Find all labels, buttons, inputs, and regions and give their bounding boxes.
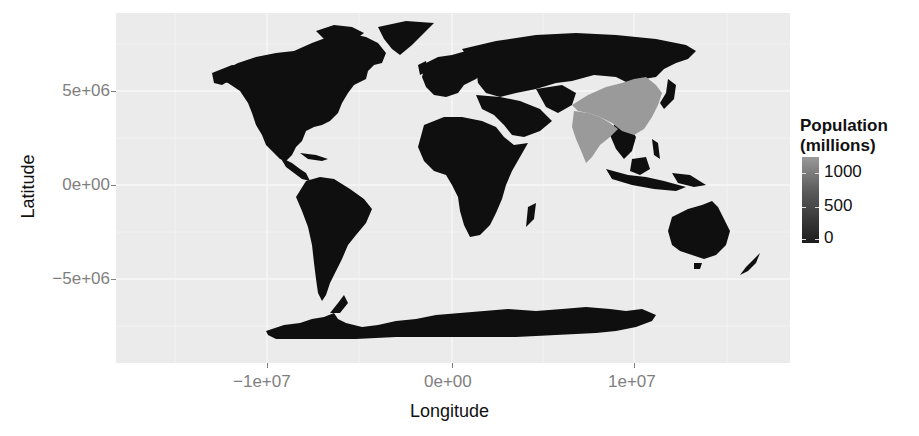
y-tick xyxy=(111,185,116,186)
australia xyxy=(668,201,730,259)
legend-label: 1000 xyxy=(824,162,862,182)
philippines xyxy=(652,139,660,159)
y-tick xyxy=(111,279,116,280)
y-tick-label: −5e+06 xyxy=(52,269,110,289)
x-tick-label: −1e+07 xyxy=(233,372,291,392)
legend-tick xyxy=(815,239,819,240)
central-america xyxy=(280,157,310,181)
tasmania xyxy=(694,263,702,269)
madagascar xyxy=(526,203,536,227)
legend-colorbar xyxy=(802,157,819,243)
land-masses xyxy=(212,21,760,339)
central-asia xyxy=(536,85,576,113)
legend-tick xyxy=(802,207,806,208)
legend-tick xyxy=(802,239,806,240)
japan xyxy=(660,79,676,109)
legend-label: 500 xyxy=(824,196,852,216)
y-tick-label: 0e+00 xyxy=(62,175,110,195)
legend-title: Population (millions) xyxy=(800,116,888,156)
legend-tick xyxy=(815,173,819,174)
russia-asia xyxy=(462,33,696,97)
x-tick xyxy=(452,363,453,368)
legend-title-line2: (millions) xyxy=(800,136,888,156)
greenland xyxy=(378,21,434,55)
new-zealand xyxy=(740,253,760,275)
legend-title-line1: Population xyxy=(800,116,888,136)
south-america xyxy=(296,177,372,301)
indonesia xyxy=(606,169,686,191)
y-tick xyxy=(111,91,116,92)
africa xyxy=(418,117,528,237)
legend-tick xyxy=(815,207,819,208)
legend-tick xyxy=(802,173,806,174)
antarctica xyxy=(266,307,656,339)
x-axis-title: Longitude xyxy=(410,401,489,422)
borneo xyxy=(630,157,650,175)
y-axis-title: Latitude xyxy=(18,147,39,227)
world-map xyxy=(116,13,790,363)
north-america xyxy=(216,33,386,161)
x-tick xyxy=(634,363,635,368)
caribbean xyxy=(300,153,328,161)
legend-label: 0 xyxy=(824,228,833,248)
x-tick xyxy=(267,363,268,368)
y-tick-label: 5e+06 xyxy=(62,81,110,101)
antarctic-peninsula xyxy=(330,295,348,313)
plot-panel xyxy=(116,13,790,363)
x-tick-label: 0e+00 xyxy=(424,372,472,392)
x-tick-label: 1e+07 xyxy=(608,372,656,392)
